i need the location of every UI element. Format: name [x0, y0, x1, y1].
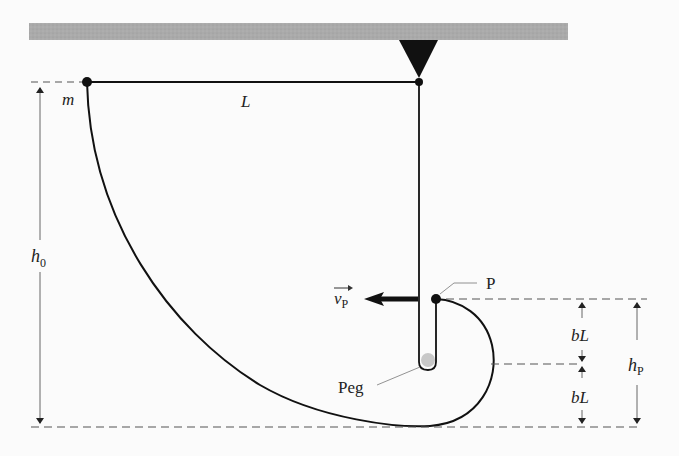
h0-label-sub: 0: [40, 256, 46, 270]
bl-lower-label: bL: [571, 388, 589, 407]
pendulum-peg-diagram: m L h0 P vP Peg bL bL hP: [0, 0, 679, 456]
mass-label: m: [62, 90, 74, 109]
h0-label-main: h: [31, 246, 40, 266]
hp-label: hP: [628, 355, 644, 378]
mass-dot: [82, 77, 92, 87]
peg-leader: [377, 367, 420, 385]
velocity-vector-head: [348, 285, 353, 291]
bl-upper-label: bL: [571, 326, 589, 345]
ceiling-bar-right: [228, 23, 568, 40]
length-label: L: [240, 92, 250, 111]
point-p-dot: [431, 294, 441, 304]
point-p-label: P: [486, 274, 495, 293]
pivot-icon: [399, 40, 438, 78]
peg-label: Peg: [338, 378, 364, 397]
velocity-label-sub: P: [342, 297, 349, 311]
point-p-leader: [440, 283, 454, 294]
hp-label-sub: P: [637, 364, 644, 378]
velocity-label: vP: [334, 289, 349, 311]
peg: [421, 353, 435, 367]
h0-label: h0: [31, 246, 46, 270]
trajectory-path: [87, 82, 494, 426]
hp-label-main: h: [628, 355, 637, 375]
ceiling-bar: [29, 23, 228, 40]
pivot-dot: [415, 78, 423, 86]
